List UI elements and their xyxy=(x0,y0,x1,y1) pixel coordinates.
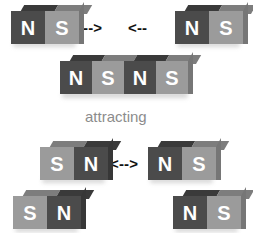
magnet-pole-south: S xyxy=(92,61,124,94)
mid-left-magnet: S N xyxy=(40,147,108,180)
joined-magnet-side-face xyxy=(188,52,193,94)
arrow-toward-right: - - > xyxy=(83,20,100,35)
magnet-pole-south: S xyxy=(209,11,243,44)
top-right-magnet: N S xyxy=(175,11,243,44)
magnet-pole-north: N xyxy=(60,61,92,94)
magnet-pole-south: S xyxy=(182,147,216,180)
magnet-pole-north: N xyxy=(175,11,209,44)
joined-magnet: N S N S xyxy=(60,61,188,94)
magnet-pole-north: N xyxy=(148,147,182,180)
magnet-pole-south: S xyxy=(207,196,241,229)
top-right-magnet-side-face xyxy=(243,2,248,44)
bottom-left-magnet-side-face xyxy=(81,187,86,229)
caption-attracting: attracting xyxy=(85,109,147,124)
magnet-pole-south: S xyxy=(40,147,74,180)
magnet-pole-south: S xyxy=(13,196,47,229)
magnet-pole-south: S xyxy=(156,61,188,94)
magnet-pole-north: N xyxy=(173,196,207,229)
bottom-left-magnet: S N xyxy=(13,196,81,229)
magnet-pole-north: N xyxy=(124,61,156,94)
magnet-diagram: N S - - > < - - N S N S N S attracting xyxy=(0,0,253,233)
magnet-pole-north: N xyxy=(11,11,45,44)
mid-right-magnet: N S xyxy=(148,147,216,180)
bottom-right-magnet: N S xyxy=(173,196,241,229)
bottom-right-magnet-side-face xyxy=(241,187,246,229)
magnet-pole-south: S xyxy=(45,11,79,44)
magnet-pole-north: N xyxy=(74,147,108,180)
mid-right-magnet-side-face xyxy=(216,138,221,180)
magnet-pole-north: N xyxy=(47,196,81,229)
arrow-apart: < - - > xyxy=(110,156,136,171)
top-left-magnet: N S xyxy=(11,11,79,44)
arrow-toward-left: < - - xyxy=(128,20,145,35)
mid-left-magnet-side-face xyxy=(108,138,113,180)
top-left-magnet-side-face xyxy=(79,2,84,44)
